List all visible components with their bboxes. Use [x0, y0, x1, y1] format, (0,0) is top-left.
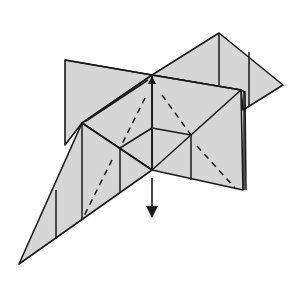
down-arrow-head — [146, 206, 158, 218]
center-right-panel — [152, 75, 243, 190]
origami-diagram-svg — [0, 0, 308, 285]
origami-diagram — [0, 0, 308, 285]
